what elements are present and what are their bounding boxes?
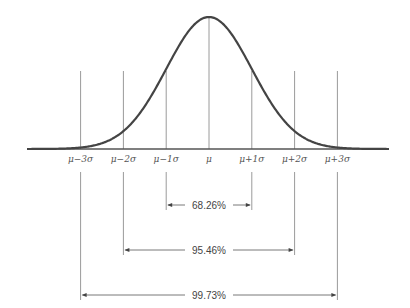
arrowhead-left-icon: [82, 293, 87, 297]
tick-label: μ+2σ: [282, 154, 308, 164]
normal-distribution-diagram: μ−3σμ−2σμ−1σμμ+1σμ+2σμ+3σ 68.26%95.46%99…: [0, 0, 410, 308]
range-percentage-label: 95.46%: [192, 245, 226, 256]
tick-label: μ: [206, 154, 212, 164]
tick-label: μ−2σ: [111, 154, 137, 164]
tick-label: μ−3σ: [68, 154, 94, 164]
bell-curve: [27, 17, 389, 149]
arrowhead-left-icon: [167, 203, 172, 207]
arrowhead-left-icon: [124, 248, 129, 252]
tick-label: μ−1σ: [154, 154, 180, 164]
tick-label: μ+1σ: [239, 154, 265, 164]
range-bracket: 68.26%: [166, 172, 252, 211]
range-percentage-label: 99.73%: [192, 290, 226, 301]
tick-label: μ+3σ: [325, 154, 351, 164]
range-bracket: 95.46%: [123, 172, 294, 256]
range-bracket: 99.73%: [81, 172, 338, 301]
arrowhead-right-icon: [246, 203, 251, 207]
range-percentage-label: 68.26%: [192, 200, 226, 211]
arrowhead-right-icon: [331, 293, 336, 297]
arrowhead-right-icon: [289, 248, 294, 252]
